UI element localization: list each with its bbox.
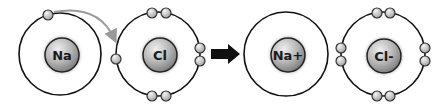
electron [195, 56, 205, 66]
nucleus-label: Cl- [374, 49, 393, 64]
electron [336, 43, 346, 53]
nucleus-label: Cl [153, 48, 167, 63]
electron [161, 8, 171, 18]
electron [147, 8, 157, 18]
ionic-bond-diagram: Na Cl Na+ Cl- [0, 0, 446, 108]
atom-cl: Cl [111, 8, 205, 101]
electron [147, 91, 157, 101]
electron [161, 91, 171, 101]
atom-na: Na [19, 10, 101, 95]
electron [420, 56, 430, 66]
electron [372, 8, 382, 18]
reaction-arrow-icon [211, 44, 240, 64]
nucleus-label: Na+ [273, 48, 304, 63]
ion-cl-minus: Cl- [336, 8, 430, 101]
ion-na-plus: Na+ [244, 12, 328, 96]
nucleus-label: Na [52, 48, 72, 63]
valence-electron [43, 10, 53, 20]
electron [195, 43, 205, 53]
electron [420, 43, 430, 53]
electron [336, 56, 346, 66]
electron [111, 54, 121, 64]
electron [372, 91, 382, 101]
electron [385, 91, 395, 101]
electron [385, 8, 395, 18]
electron-transfer-arrow [54, 10, 114, 38]
